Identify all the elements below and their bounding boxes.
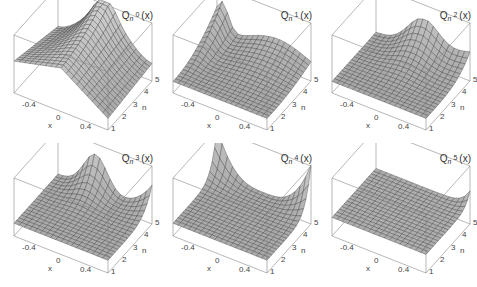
plot-title: Qn0(x) (122, 10, 153, 22)
title-argument: (x) (300, 153, 312, 164)
n-axis-label: n (460, 103, 464, 112)
x-axis-label: x (48, 264, 52, 273)
n-axis-label: n (301, 246, 305, 255)
n-axis-label: n (301, 103, 305, 112)
surface-plot-4: Qn4(x)-0.400.4x12345n (159, 143, 318, 286)
plot-title: Qn4(x) (281, 153, 312, 165)
n-tick-label: 3 (451, 243, 455, 252)
title-superscript: 1 (294, 11, 298, 18)
n-tick-label: 3 (133, 243, 137, 252)
n-tick-label: 2 (281, 255, 285, 264)
surface-plot-2: Qn2(x)-0.400.4x12345n (318, 0, 477, 143)
plot-title: Qn1(x) (281, 10, 312, 22)
title-superscript: 2 (453, 11, 457, 18)
n-axis-label: n (142, 246, 146, 255)
n-tick-label: 4 (462, 87, 466, 96)
title-superscript: 0 (135, 11, 139, 18)
title-superscript: 3 (135, 154, 139, 161)
x-tick-label: 0.4 (80, 265, 91, 274)
n-tick-label: 1 (429, 124, 433, 133)
n-tick-label: 3 (292, 100, 296, 109)
x-tick-label: 0 (374, 113, 378, 122)
n-tick-label: 4 (144, 87, 148, 96)
title-symbol: Q (281, 153, 289, 164)
x-tick-label: -0.4 (22, 100, 36, 109)
n-tick-label: 1 (270, 124, 274, 133)
title-subscript: n (289, 158, 293, 165)
x-tick-label: 0 (215, 256, 219, 265)
x-tick-label: 0.4 (80, 122, 91, 131)
n-tick-label: 2 (281, 112, 285, 121)
n-tick-label: 2 (122, 112, 126, 121)
n-tick-label: 2 (122, 255, 126, 264)
x-tick-label: 0 (374, 256, 378, 265)
n-axis-label: n (142, 103, 146, 112)
n-tick-label: 1 (111, 267, 115, 276)
plot-title: Qn3(x) (122, 153, 153, 165)
x-axis-label: x (366, 264, 370, 273)
n-tick-label: 3 (292, 243, 296, 252)
x-tick-label: 0 (56, 113, 60, 122)
figure-grid: Qn0(x)-0.400.4x12345nQn1(x)-0.400.4x1234… (0, 0, 477, 287)
title-superscript: 5 (453, 154, 457, 161)
title-symbol: Q (122, 10, 130, 21)
n-tick-label: 2 (440, 112, 444, 121)
x-axis-label: x (48, 121, 52, 130)
title-subscript: n (448, 15, 452, 22)
n-tick-label: 3 (451, 100, 455, 109)
plot-title: Qn2(x) (440, 10, 471, 22)
x-axis-label: x (366, 121, 370, 130)
title-subscript: n (130, 15, 134, 22)
plot-title: Qn5(x) (440, 153, 471, 165)
title-argument: (x) (459, 10, 471, 21)
title-argument: (x) (141, 153, 153, 164)
title-argument: (x) (300, 10, 312, 21)
n-tick-label: 1 (270, 267, 274, 276)
title-subscript: n (448, 158, 452, 165)
x-tick-label: 0.4 (239, 122, 250, 131)
x-tick-label: 0 (56, 256, 60, 265)
title-symbol: Q (440, 10, 448, 21)
x-tick-label: 0.4 (398, 265, 409, 274)
surface-plot-0: Qn0(x)-0.400.4x12345n (0, 0, 159, 143)
n-tick-label: 5 (473, 75, 477, 84)
n-tick-label: 4 (303, 87, 307, 96)
n-tick-label: 1 (111, 124, 115, 133)
x-tick-label: -0.4 (340, 243, 354, 252)
title-symbol: Q (440, 153, 448, 164)
title-symbol: Q (281, 10, 289, 21)
title-superscript: 4 (294, 154, 298, 161)
title-argument: (x) (141, 10, 153, 21)
n-tick-label: 2 (440, 255, 444, 264)
n-tick-label: 4 (144, 230, 148, 239)
x-tick-label: -0.4 (181, 243, 195, 252)
n-tick-label: 4 (462, 230, 466, 239)
surface-plot-3: Qn3(x)-0.400.4x12345n (0, 143, 159, 286)
n-tick-label: 5 (473, 218, 477, 227)
n-tick-label: 1 (429, 267, 433, 276)
x-axis-label: x (207, 121, 211, 130)
x-tick-label: -0.4 (181, 100, 195, 109)
x-tick-label: 0.4 (398, 122, 409, 131)
title-subscript: n (289, 15, 293, 22)
n-tick-label: 3 (133, 100, 137, 109)
title-subscript: n (130, 158, 134, 165)
title-argument: (x) (459, 153, 471, 164)
surface-plot-5: Qn5(x)-0.400.4x12345n (318, 143, 477, 286)
n-axis-label: n (460, 246, 464, 255)
n-tick-label: 4 (303, 230, 307, 239)
x-tick-label: 0.4 (239, 265, 250, 274)
x-axis-label: x (207, 264, 211, 273)
x-tick-label: 0 (215, 113, 219, 122)
x-tick-label: -0.4 (22, 243, 36, 252)
x-tick-label: -0.4 (340, 100, 354, 109)
title-symbol: Q (122, 153, 130, 164)
surface-plot-1: Qn1(x)-0.400.4x12345n (159, 0, 318, 143)
